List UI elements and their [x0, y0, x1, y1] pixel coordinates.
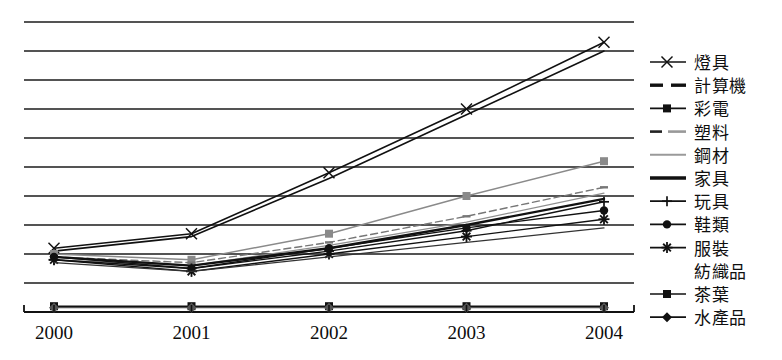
chart-root: 20002001200220032004 燈具計算機彩電塑料鋼材家具玩具鞋類服裝… [0, 0, 782, 360]
line-chart: 20002001200220032004 燈具計算機彩電塑料鋼材家具玩具鞋類服裝… [0, 0, 782, 360]
x-tick-label: 2000 [35, 322, 73, 343]
marker-dash [600, 186, 608, 188]
x-tick-label: 2004 [585, 322, 624, 343]
figure-caption [0, 344, 640, 360]
legend-item-label: 計算機 [694, 76, 747, 96]
legend-item-label: 彩電 [694, 99, 729, 119]
legend-item-label: 鋼材 [694, 146, 729, 166]
marker-square [663, 290, 671, 298]
legend-item-9[interactable]: 紡織品 [694, 262, 747, 282]
marker-dash [463, 215, 471, 217]
marker-circle [462, 224, 470, 232]
marker-circle [600, 206, 608, 214]
x-tick-label: 2003 [448, 322, 486, 343]
marker-square [325, 230, 333, 238]
marker-square [463, 192, 471, 200]
marker-square [663, 104, 671, 112]
legend-item-label: 燈具 [694, 53, 729, 73]
legend-item-label: 鞋類 [694, 215, 729, 235]
x-tick-label: 2002 [310, 322, 348, 343]
legend-item-label: 茶葉 [694, 285, 729, 305]
x-tick-label: 2001 [173, 322, 211, 343]
legend-item-label: 紡織品 [694, 262, 747, 282]
marker-circle [663, 220, 671, 228]
marker-square [600, 157, 608, 165]
legend-item-label: 家具 [694, 169, 729, 189]
legend-item-label: 塑料 [694, 123, 729, 143]
legend-item-label: 玩具 [694, 192, 729, 212]
marker-dash [325, 241, 333, 243]
legend-item-label: 服裝 [694, 239, 729, 259]
legend-item-label: 水產品 [694, 308, 747, 328]
